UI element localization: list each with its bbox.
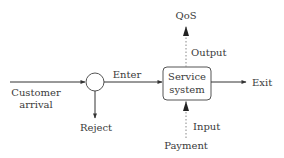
label-system: system: [169, 84, 205, 95]
label-payment: Payment: [164, 140, 208, 151]
service-system-diagram: Customer arrival Enter Reject Service sy…: [0, 0, 284, 158]
label-enter: Enter: [113, 69, 142, 80]
label-qos: QoS: [175, 10, 196, 21]
label-service: Service: [168, 71, 206, 82]
decision-node: [86, 73, 104, 91]
label-exit: Exit: [252, 77, 272, 88]
output-arrowhead: [183, 26, 189, 36]
label-reject: Reject: [80, 122, 112, 133]
input-arrowhead: [183, 101, 189, 111]
label-input: Input: [193, 121, 220, 132]
label-arrival: arrival: [19, 99, 53, 110]
label-output: Output: [191, 47, 227, 58]
label-customer: Customer: [11, 87, 61, 98]
